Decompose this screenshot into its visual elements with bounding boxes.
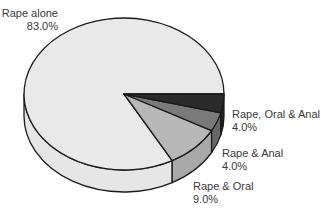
label-rape-anal-pct: 4.0%	[222, 160, 283, 173]
label-rape-oral-name: Rape & Oral	[193, 180, 254, 193]
label-rape-oral-anal: Rape, Oral & Anal 4.0%	[232, 108, 320, 134]
label-rape-oral: Rape & Oral 9.0%	[193, 180, 254, 206]
label-rape-alone: Rape alone 83.0%	[0, 7, 58, 33]
label-rape-anal-name: Rape & Anal	[222, 147, 283, 160]
label-rape-alone-pct: 83.0%	[0, 20, 58, 33]
label-rape-alone-name: Rape alone	[0, 7, 58, 20]
label-rape-anal: Rape & Anal 4.0%	[222, 147, 283, 173]
label-rape-oral-anal-pct: 4.0%	[232, 121, 320, 134]
label-rape-oral-pct: 9.0%	[193, 193, 254, 206]
label-rape-oral-anal-name: Rape, Oral & Anal	[232, 108, 320, 121]
